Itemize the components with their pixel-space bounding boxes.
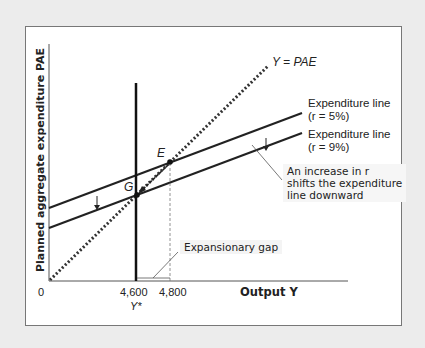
shift-annotation: An increase in r shifts the expenditure … bbox=[283, 164, 406, 202]
point-g-marker bbox=[134, 192, 140, 198]
expenditure-r5-rate: (r = 5%) bbox=[308, 110, 390, 123]
expenditure-r5-label: Expenditure line (r = 5%) bbox=[308, 97, 390, 123]
shift-arrow-right-icon bbox=[263, 138, 269, 151]
expenditure-r9-label: Expenditure line (r = 9%) bbox=[308, 128, 390, 154]
shift-arrow-left-icon bbox=[94, 196, 100, 210]
forty-five-line-label: Y = PAE bbox=[272, 55, 317, 69]
gap-leader-line bbox=[153, 252, 178, 278]
point-e-label: E bbox=[157, 146, 165, 160]
expenditure-line-r5 bbox=[49, 113, 302, 208]
x-tick-4800: 4,800 bbox=[159, 286, 187, 298]
origin-label: 0 bbox=[38, 286, 44, 298]
x-tick-4600: 4,600 bbox=[120, 286, 148, 298]
expenditure-r5-name: Expenditure line bbox=[308, 97, 390, 110]
expenditure-r9-name: Expenditure line bbox=[308, 128, 390, 141]
x-axis-label: Output Y bbox=[240, 285, 298, 299]
shift-annotation-line-1: An increase in r bbox=[287, 165, 402, 177]
y-axis-label: Planned aggregate expenditure PAE bbox=[34, 48, 47, 272]
expenditure-r9-rate: (r = 9%) bbox=[308, 141, 390, 154]
point-e-marker bbox=[167, 159, 173, 165]
shift-note-leader bbox=[252, 145, 282, 180]
expansionary-gap-label: Expansionary gap bbox=[180, 240, 282, 254]
shift-annotation-line-3: line downward bbox=[287, 189, 402, 201]
potential-output-label: Y* bbox=[130, 300, 142, 312]
shift-annotation-line-2: shifts the expenditure bbox=[287, 177, 402, 189]
point-g-label: G bbox=[124, 180, 133, 194]
